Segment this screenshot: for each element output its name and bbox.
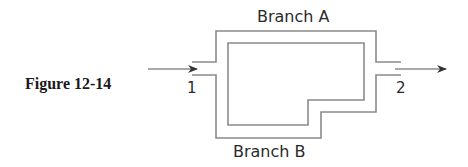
outlet-station-label: 2: [396, 81, 406, 96]
figure-canvas: Figure 12-14 Branch A Branch B 1 2: [0, 0, 468, 167]
outer-wall-top: [192, 31, 401, 62]
branch-a-label: Branch A: [257, 9, 329, 25]
outer-wall-bottom: [192, 75, 401, 138]
branch-b-label: Branch B: [233, 144, 306, 160]
inlet-station-label: 1: [187, 81, 197, 96]
